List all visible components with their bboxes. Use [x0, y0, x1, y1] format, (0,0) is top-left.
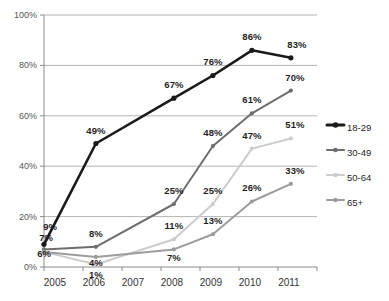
legend-label-18-29: 18-29	[347, 122, 371, 133]
x-axis-labels: 2005200620072008200920102011	[44, 277, 300, 288]
data-label: 67%	[164, 79, 184, 90]
y-axis-tick-label: 20%	[19, 212, 37, 222]
x-axis-tick-label: 2007	[122, 277, 145, 288]
data-label: 9%	[43, 221, 57, 232]
y-axis-tick-label: 100%	[14, 10, 37, 20]
data-point-marker	[250, 111, 254, 115]
data-label: 47%	[242, 130, 262, 141]
y-axis-tick-label: 0%	[24, 262, 37, 272]
data-point-marker	[249, 48, 254, 53]
data-point-marker	[250, 199, 254, 203]
data-label: 51%	[285, 119, 305, 130]
x-axis-tick-label: 2005	[44, 277, 67, 288]
data-point-labels: 9%49%67%76%86%83%7%8%25%48%61%70%6%1%11%…	[37, 31, 307, 280]
line-chart: 0%20%40%60%80%100% 9%49%67%76%86%83%7%8%…	[0, 0, 389, 301]
x-axis-tickmarks	[44, 267, 317, 271]
data-label: 49%	[86, 125, 106, 136]
data-label: 25%	[203, 185, 223, 196]
data-point-marker	[93, 141, 98, 146]
data-point-marker	[288, 55, 293, 60]
data-label: 70%	[285, 72, 305, 83]
legend-marker	[333, 173, 338, 178]
data-label: 13%	[203, 215, 223, 226]
legend-marker	[333, 198, 338, 203]
data-point-marker	[94, 245, 98, 249]
data-point-marker	[289, 89, 293, 93]
data-label: 4%	[89, 257, 103, 268]
data-point-marker	[211, 144, 215, 148]
data-point-marker	[211, 232, 215, 236]
data-label: 83%	[287, 39, 307, 50]
data-point-marker	[172, 247, 176, 251]
data-label: 11%	[165, 220, 184, 231]
x-axis-tick-label: 2008	[161, 277, 184, 288]
y-axis-labels: 0%20%40%60%80%100%	[14, 10, 37, 272]
data-label: 86%	[242, 31, 262, 42]
y-axis-tick-label: 60%	[19, 111, 37, 121]
data-point-marker	[171, 96, 176, 101]
x-axis-tick-label: 2009	[200, 277, 223, 288]
chart-legend: 18-2930-4950-6465+	[327, 122, 371, 208]
data-point-marker	[289, 182, 293, 186]
legend-marker	[333, 122, 339, 128]
y-axis-tick-label: 40%	[19, 161, 37, 171]
data-point-marker	[172, 237, 176, 241]
x-axis-tick-label: 2011	[278, 277, 300, 288]
data-label: 25%	[164, 185, 184, 196]
data-label: 26%	[242, 182, 262, 193]
data-label: 8%	[89, 228, 103, 239]
x-axis-tick-label: 2006	[83, 277, 106, 288]
data-point-marker	[211, 202, 215, 206]
legend-label-50-64: 50-64	[347, 172, 371, 183]
x-axis-tick-label: 2010	[239, 277, 262, 288]
chart-canvas: 0%20%40%60%80%100% 9%49%67%76%86%83%7%8%…	[0, 0, 389, 301]
y-axis-tick-label: 80%	[19, 60, 37, 70]
data-label: 76%	[203, 56, 223, 67]
data-point-marker	[210, 73, 215, 78]
data-label: 7%	[167, 252, 181, 263]
data-label: 6%	[37, 248, 51, 259]
legend-label-65+: 65+	[347, 197, 364, 208]
data-point-marker	[172, 202, 176, 206]
data-label: 61%	[242, 94, 262, 105]
data-label: 48%	[203, 127, 223, 138]
data-point-marker	[250, 146, 254, 150]
data-label: 7%	[39, 232, 53, 243]
legend-marker	[333, 148, 338, 153]
data-label: 33%	[285, 165, 305, 176]
legend-label-30-49: 30-49	[347, 147, 371, 158]
data-point-marker	[289, 136, 293, 140]
